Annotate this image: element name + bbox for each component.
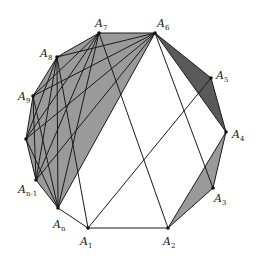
label-A4: A4 bbox=[232, 129, 244, 143]
vertex-A1 bbox=[86, 226, 90, 230]
vertex-A8 bbox=[55, 55, 59, 59]
vertex-A3 bbox=[211, 186, 215, 190]
label-A7: A7 bbox=[95, 18, 107, 32]
vertex-A5 bbox=[209, 76, 213, 80]
label-A8: A8 bbox=[40, 48, 52, 62]
vertex-An-1 bbox=[34, 178, 38, 182]
vertex-A4 bbox=[224, 130, 228, 134]
label-An-1: An-1 bbox=[18, 184, 37, 198]
vertex-V bbox=[24, 137, 28, 141]
vertex-A2 bbox=[166, 226, 170, 230]
label-An: An bbox=[53, 219, 65, 233]
label-A2: A2 bbox=[163, 236, 175, 250]
label-A9: A9 bbox=[18, 91, 30, 105]
polygon-diagram bbox=[0, 0, 256, 263]
vertex-A9 bbox=[31, 94, 35, 98]
label-A1: A1 bbox=[80, 236, 92, 250]
label-A5: A5 bbox=[216, 70, 228, 84]
label-A3: A3 bbox=[214, 193, 226, 207]
vertex-An bbox=[56, 206, 60, 210]
label-A6: A6 bbox=[157, 18, 169, 32]
